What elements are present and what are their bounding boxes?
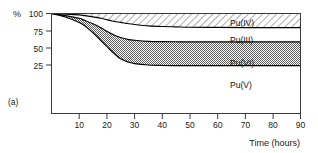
series-label-pu-vi: Pu(VI) [230, 58, 254, 68]
x-axis-title: Time (hours) [249, 138, 300, 148]
y-tick-label-25: 25 [34, 61, 44, 71]
y-axis-unit-label: % [13, 9, 21, 19]
panel-label: (a) [8, 97, 19, 107]
plutonium-speciation-chart: 100 75 50 25 % 10 20 30 40 50 60 70 80 9… [0, 0, 318, 153]
series-label-pu-iii: Pu(III) [230, 35, 253, 45]
series-label-pu-v: Pu(V) [230, 80, 252, 90]
x-tick-label-80: 80 [268, 120, 278, 130]
y-tick-label-100: 100 [29, 9, 43, 19]
x-tick-label-90: 90 [296, 120, 306, 130]
y-tick-label-50: 50 [34, 44, 44, 54]
figure-panel: 100 75 50 25 % 10 20 30 40 50 60 70 80 9… [0, 0, 318, 153]
x-tick-label-10: 10 [74, 120, 84, 130]
x-tick-label-40: 40 [158, 120, 168, 130]
series-label-pu-iv: Pu(IV) [230, 18, 254, 28]
x-tick-label-20: 20 [102, 120, 112, 130]
x-tick-label-70: 70 [241, 120, 251, 130]
y-tick-label-75: 75 [34, 27, 44, 37]
x-tick-label-30: 30 [130, 120, 140, 130]
y-axis-ticks [46, 14, 52, 66]
x-tick-label-50: 50 [185, 120, 195, 130]
x-axis-ticks [79, 114, 300, 120]
x-tick-label-60: 60 [213, 120, 223, 130]
